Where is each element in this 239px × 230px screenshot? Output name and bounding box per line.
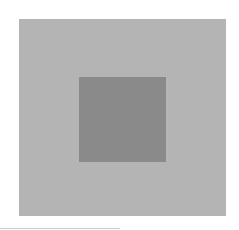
inner-dark-square — [79, 77, 166, 162]
figure-canvas — [0, 0, 239, 230]
bottom-divider — [0, 228, 120, 229]
